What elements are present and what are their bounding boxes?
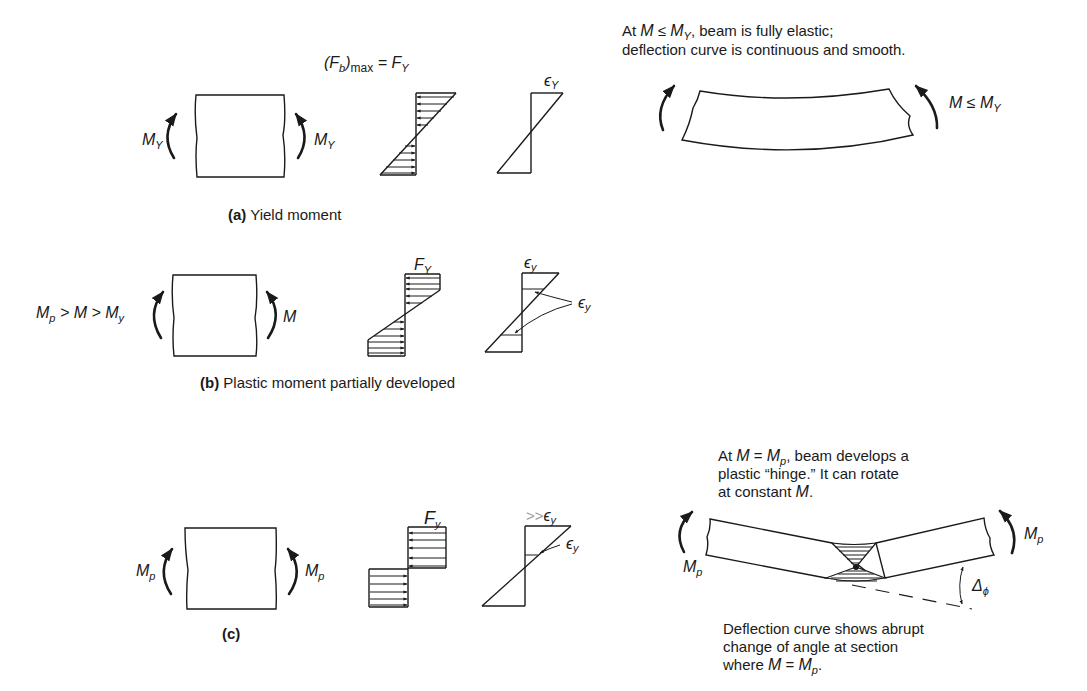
stress-max-label: (Fb)max = FY — [324, 54, 409, 75]
caption-a: (a) Yield moment — [228, 206, 342, 223]
hinge-moment-right-label: Mp — [1024, 525, 1043, 545]
strain-top-label-c: >>ϵy — [526, 507, 558, 526]
hinge-bottom-line3: where M = Mp. — [722, 656, 822, 676]
moment-left-label: MY — [142, 131, 163, 151]
moment-arrow-right-icon — [916, 86, 937, 128]
plastic-moment-diagram: (Fb)max = FY MY MY — [0, 0, 1087, 691]
strain-diagram-b: ϵy ϵy — [485, 254, 592, 352]
beam-section-a — [195, 95, 285, 177]
moment-arrow-right-icon — [296, 114, 305, 158]
rotation-angle-label: Δϕ — [971, 577, 989, 597]
strain-diagram-a — [497, 93, 563, 173]
elastic-note-line1: At M ≤ MY, beam is fully elastic; — [622, 22, 833, 42]
hinge-note-line1: At M = Mp, beam develops a — [718, 447, 909, 467]
stress-diagram-a — [380, 93, 456, 175]
moment-arrow-left-icon — [660, 86, 674, 130]
panel-c-full-plastic: Mp Mp Fy >>ϵy — [136, 507, 580, 642]
plastic-hinge-illustration: At M = Mp, beam develops a plastic “hing… — [680, 447, 1044, 676]
moment-arrow-right-icon — [288, 549, 297, 594]
moment-arrow-right-icon — [1000, 511, 1014, 553]
panel-b-partial-plastic: Mp > M > My M FY ϵy — [36, 254, 592, 391]
caption-b: (b) Plastic moment partially developed — [200, 374, 455, 391]
moment-left-label: Mp — [136, 562, 155, 582]
stress-label-b: FY — [414, 256, 432, 276]
hinge-bottom-line2: change of angle at section — [723, 638, 898, 655]
moment-arrow-right-icon — [267, 292, 276, 338]
moment-right-label: Mp — [305, 562, 324, 582]
rotation-angle-arrow-icon — [960, 567, 963, 604]
moment-arrow-left-icon — [164, 549, 172, 594]
panel-a-yield-moment: (Fb)max = FY MY MY — [142, 54, 563, 223]
hinge-bottom-line1: Deflection curve shows abrupt — [723, 620, 925, 637]
moment-arrow-left-icon — [167, 114, 176, 158]
moment-arrow-left-icon — [680, 512, 693, 552]
elastic-note-line2: deflection curve is continuous and smoot… — [622, 41, 906, 58]
hinge-moment-left-label: Mp — [683, 558, 702, 578]
strain-side-label-c: ϵy — [566, 535, 580, 554]
strain-diagram-c: >>ϵy ϵy — [482, 507, 580, 606]
moment-right-label: MY — [314, 131, 335, 151]
beam-right-segment — [876, 518, 994, 578]
curved-elastic-beam — [682, 89, 913, 150]
deflection-reference-dashed-line — [852, 585, 972, 609]
strain-top-label-b: ϵy — [524, 254, 538, 273]
strain-side-label-b: ϵy — [578, 294, 592, 313]
beam-section-b — [172, 275, 257, 356]
moment-arrow-left-icon — [154, 292, 163, 338]
beam-section-c — [185, 528, 276, 609]
moment-right-label: M — [283, 308, 297, 325]
moment-inequality-label: Mp > M > My — [36, 304, 126, 324]
hinge-note-line3: at constant M. — [718, 483, 813, 500]
elastic-moment-label: M ≤ MY — [949, 94, 1001, 114]
strain-label-a: ϵY — [544, 72, 559, 91]
plastic-hinge-hatch — [826, 543, 885, 581]
hinge-note-line2: plastic “hinge.” It can rotate — [718, 465, 899, 482]
caption-c: (c) — [222, 625, 240, 642]
stress-diagram-b: FY — [368, 256, 440, 356]
stress-diagram-c: Fy — [369, 508, 446, 607]
elastic-beam-illustration: At M ≤ MY, beam is fully elastic; deflec… — [622, 22, 1001, 150]
